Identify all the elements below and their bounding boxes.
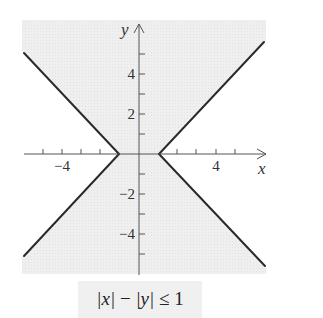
caption-minus: − (115, 288, 135, 309)
x-tick-label-4: 4 (212, 158, 220, 174)
y-tick-label-neg2: −2 (119, 186, 135, 202)
y-axis-label: y (119, 20, 129, 39)
caption-abs-y: |y| (135, 288, 154, 309)
caption-box: |x| − |y| ≤ 1 (78, 281, 202, 318)
inequality-caption: |x| − |y| ≤ 1 (78, 288, 202, 310)
caption-abs-x: |x| (96, 288, 115, 309)
shaded-region (22, 20, 266, 274)
x-axis-label: x (257, 159, 266, 178)
caption-leq: ≤ 1 (154, 288, 183, 309)
region-plot: x y −4 4 4 2 −2 −4 (0, 0, 323, 318)
y-tick-label-neg4: −4 (119, 226, 135, 242)
y-tick-label-2: 2 (128, 106, 136, 122)
x-tick-label-neg4: −4 (54, 158, 70, 174)
y-tick-label-4: 4 (128, 66, 136, 82)
